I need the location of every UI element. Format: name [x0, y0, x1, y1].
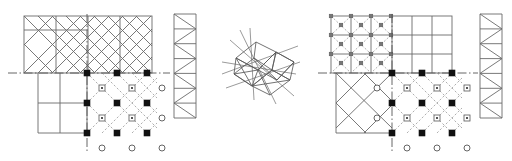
marker-open-circle — [374, 115, 380, 121]
marker-filled-square — [449, 130, 455, 136]
marker-filled-square — [114, 70, 120, 76]
marker-open-square — [99, 115, 105, 121]
right-cell-upper-left-node-markers — [329, 14, 393, 65]
marker-open-circle — [374, 85, 380, 91]
marker-filled-square — [114, 100, 120, 106]
marker-open-circle — [464, 145, 470, 151]
marker-open-circle — [159, 145, 165, 151]
marker-open-circle — [434, 145, 440, 151]
marker-filled-square — [114, 130, 120, 136]
marker-open-circle — [129, 145, 135, 151]
marker-open-square — [434, 115, 440, 121]
panel-center-polyhedral-cluster — [222, 28, 300, 104]
marker-open-circle — [159, 115, 165, 121]
marker-open-square — [129, 115, 135, 121]
left-cell-lower-left-grid — [38, 73, 87, 133]
marker-filled-square — [419, 100, 425, 106]
right-cell-lower-left-diagonal-lattice — [336, 73, 392, 133]
marker-open-circle — [159, 85, 165, 91]
panel-right-triangulated-strip — [480, 14, 502, 118]
marker-filled-square — [84, 70, 90, 76]
right-cell-upper-right-grid — [331, 16, 452, 73]
marker-open-square — [464, 115, 470, 121]
panel-right-unit-cell — [318, 14, 478, 152]
marker-filled-square — [449, 100, 455, 106]
marker-open-circle — [99, 145, 105, 151]
marker-filled-square — [144, 70, 150, 76]
panel-left-unit-cell — [8, 14, 170, 152]
marker-open-square — [464, 85, 470, 91]
marker-open-circle — [404, 145, 410, 151]
marker-filled-square — [449, 70, 455, 76]
marker-filled-square — [389, 100, 395, 106]
right-cell-markers — [374, 70, 470, 151]
marker-open-square — [404, 85, 410, 91]
marker-open-square — [129, 85, 135, 91]
figure-root — [0, 0, 512, 161]
marker-open-square — [434, 85, 440, 91]
marker-filled-square — [144, 130, 150, 136]
marker-filled-square — [389, 130, 395, 136]
marker-filled-square — [84, 100, 90, 106]
figure-canvas — [0, 0, 512, 161]
left-cell-upper-diagonal-lattice — [24, 16, 152, 73]
marker-filled-square — [144, 100, 150, 106]
clipped-header-text — [0, 0, 512, 9]
panel-left-triangulated-strip — [174, 14, 196, 118]
marker-open-square — [404, 115, 410, 121]
marker-filled-square — [419, 70, 425, 76]
marker-filled-square — [84, 130, 90, 136]
marker-filled-square — [419, 130, 425, 136]
marker-open-square — [99, 85, 105, 91]
marker-filled-square — [389, 70, 395, 76]
